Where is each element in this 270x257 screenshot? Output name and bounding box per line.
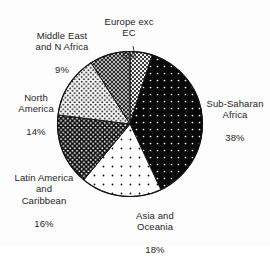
pie-label-name: Europe exc EC <box>98 16 160 39</box>
pie-label-europe-exc-ec: Europe exc EC 5% <box>98 4 160 73</box>
pie-label-name: Latin America and Caribbean <box>2 172 86 207</box>
pie-label-name: North America <box>4 92 68 115</box>
pie-label-percent: 18% <box>116 244 194 256</box>
pie-label-percent: 38% <box>200 132 270 144</box>
pie-label-percent: 14% <box>4 126 68 138</box>
pie-label-middle-east-and-n-africa: Middle East and N Africa 9% <box>22 18 102 87</box>
pie-label-asia-and-oceania: Asia and Oceania 18% <box>116 198 194 257</box>
pie-label-percent: 16% <box>2 218 86 230</box>
pie-label-percent: 9% <box>22 64 102 76</box>
pie-label-sub-saharan-africa: Sub-Saharan Africa 38% <box>200 86 270 155</box>
pie-label-percent: 5% <box>98 50 160 62</box>
pie-label-name: Asia and Oceania <box>116 210 194 233</box>
pie-label-north-america: North America 14% <box>4 80 68 149</box>
pie-label-name: Middle East and N Africa <box>22 30 102 53</box>
pie-label-name: Sub-Saharan Africa <box>200 98 270 121</box>
pie-label-latin-america-and-caribbean: Latin America and Caribbean 16% <box>2 160 86 241</box>
